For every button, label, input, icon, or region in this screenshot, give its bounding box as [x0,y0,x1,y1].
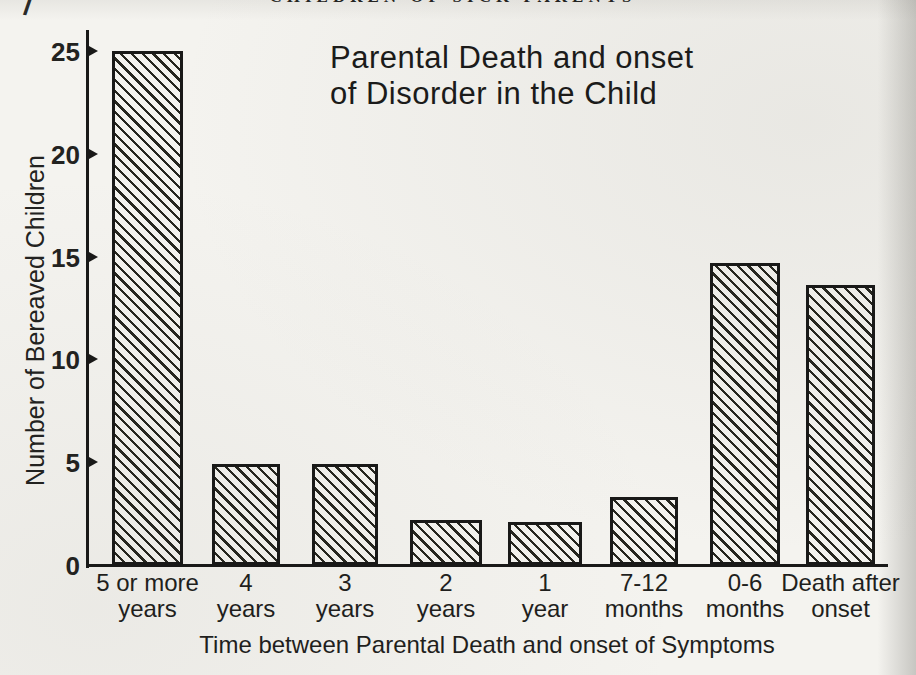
ytick-label-25: 25 [28,37,80,68]
ytick-label-5: 5 [28,448,80,479]
ytick-arrow-icon [89,46,98,56]
ytick-arrow-icon [89,457,98,467]
bar-1-year [508,522,582,565]
y-axis-line [86,30,89,568]
running-header: CHILDREN OF SICK PARENTS [248,0,658,9]
bar-5-or-more-years [112,51,183,565]
chart-title-line2: of Disorder in the Child [330,76,694,112]
bar-7-12-months [610,497,678,565]
ytick-label-20: 20 [28,140,80,171]
ytick-arrow-icon [89,149,98,159]
bar-0-6-months [710,263,780,565]
ytick-label-10: 10 [28,345,80,376]
y-axis-label: Number of Bereaved Children [21,148,50,493]
chart-title-line1: Parental Death and onset [330,40,694,76]
chart-title: Parental Death and onset of Disorder in … [330,40,694,112]
bar-2-years [410,520,482,565]
ytick-arrow-icon [89,354,98,364]
xcat-label-8: Death afteronset [766,570,916,622]
running-header-text: CHILDREN OF SICK PARENTS [248,0,658,7]
bar-4-years [212,464,280,565]
x-axis-title: Time between Parental Death and onset of… [137,631,837,659]
ytick-label-15: 15 [28,243,80,274]
bar-death-after-onset [806,285,875,565]
bar-3-years [312,464,378,565]
ytick-arrow-icon [89,252,98,262]
scanned-book-page: CHILDREN OF SICK PARENTS / Parental Deat… [0,0,916,675]
page-corner-mark: / [22,0,34,22]
